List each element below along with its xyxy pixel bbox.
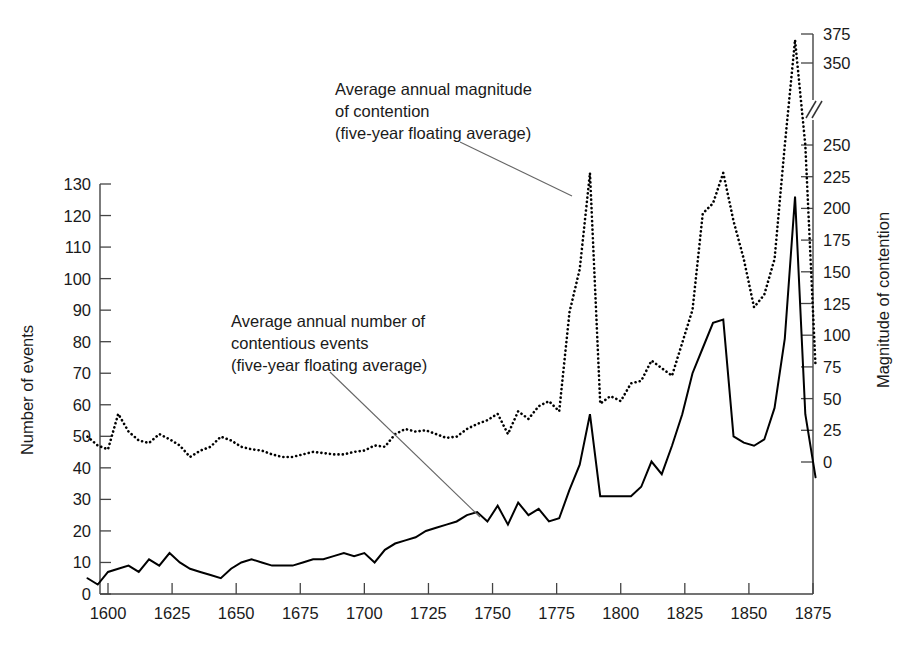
left-tick-label: 10 [73,553,91,571]
left-tick-label: 0 [82,585,91,603]
x-tick-label: 1750 [474,604,511,622]
x-tick-label: 1825 [666,604,703,622]
x-tick-label: 1700 [346,604,383,622]
axis-break-marks [804,100,822,120]
left-tick-label: 20 [73,522,91,540]
right-tick-label: 200 [823,199,851,217]
right-tick-label: 225 [823,168,851,186]
left-tick-label: 120 [63,207,91,225]
chart-figure: 0102030405060708090100110120130 02550751… [0,0,915,652]
contention-line-chart: 0102030405060708090100110120130 02550751… [0,0,915,652]
x-tick-label: 1650 [218,604,255,622]
x-tick-label: 1600 [90,604,127,622]
annotation-line: of contention [335,102,430,120]
annotation-line: Average annual number of [231,312,426,330]
right-tick-label: 75 [823,358,841,376]
left-tick-label: 80 [73,333,91,351]
annotation-line: (five-year floating average) [335,124,531,142]
annotation-line: (five-year floating average) [231,356,427,374]
x-tick-label: 1675 [282,604,319,622]
left-tick-label: 60 [73,396,91,414]
right-tick-label: 250 [823,136,851,154]
right-tick-label: 350 [823,54,851,72]
left-axis-title: Number of events [18,325,36,455]
left-tick-label: 90 [73,301,91,319]
x-tick-label: 1775 [538,604,575,622]
right-axis-break [804,100,822,120]
annotation-line: contentious events [231,334,369,352]
annotation-line: Average annual magnitude [335,80,532,98]
right-tick-label: 175 [823,231,851,249]
left-tick-label: 40 [73,459,91,477]
x-tick-label: 1850 [731,604,768,622]
x-tick-label: 1625 [154,604,191,622]
x-tick-label: 1725 [410,604,447,622]
right-tick-label: 125 [823,295,851,313]
x-tick-label: 1875 [795,604,832,622]
right-tick-label: 150 [823,263,851,281]
right-axis-title: Magnitude of contention [874,212,892,388]
right-tick-label: 25 [823,421,841,439]
left-tick-label: 130 [63,175,91,193]
right-tick-label: 50 [823,390,841,408]
left-tick-label: 110 [65,238,91,256]
right-tick-label: 375 [823,25,851,43]
right-tick-label: 100 [823,326,851,344]
left-tick-label: 70 [73,364,91,382]
left-tick-label: 30 [73,490,91,508]
x-tick-label: 1800 [602,604,639,622]
left-tick-label: 100 [63,270,91,288]
right-tick-label: 0 [823,453,832,471]
